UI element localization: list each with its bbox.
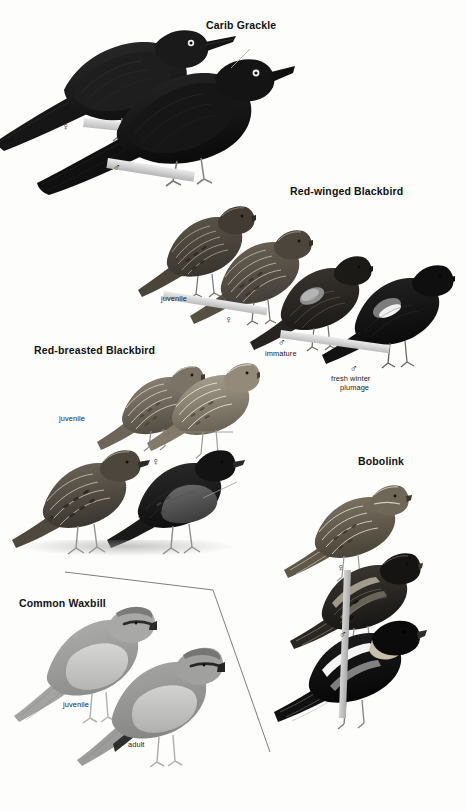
bobolink-female-symbol: ♀ <box>337 562 345 573</box>
ground-shadow-red-breasted <box>18 540 233 556</box>
rwbl-female-symbol: ♀ <box>225 314 233 325</box>
bird-rwbl-adult-male <box>320 255 455 380</box>
rwbl-adult-male-label-line2: plumage <box>340 383 369 392</box>
rbbl-juvenile-label: juvenile <box>59 414 85 423</box>
species-title-carib-grackle: Carib Grackle <box>206 19 276 31</box>
field-guide-plate: Carib Grackle ♀ ♂ Red-winged Blackbird j… <box>0 0 467 811</box>
waxbill-adult-label: adult <box>128 740 145 749</box>
species-title-common-waxbill: Common Waxbill <box>19 597 106 609</box>
rwbl-immature-male-symbol: ♂ <box>278 337 286 348</box>
carib-grackle-female-symbol: ♀ <box>62 121 70 132</box>
rbbl-female-symbol: ♀ <box>152 456 160 467</box>
species-title-bobolink: Bobolink <box>358 455 404 467</box>
rwbl-adult-male-label-line1: fresh winter <box>331 374 370 383</box>
waxbill-juvenile-label: juvenile <box>63 700 89 709</box>
rwbl-immature-label: immature <box>265 349 297 358</box>
rwbl-adult-male-symbol: ♂ <box>350 363 358 374</box>
bird-carib-grackle-male <box>35 55 295 200</box>
rbbl-male-right-symbol: ♂ <box>137 511 145 522</box>
bird-bobolink-male-breeding <box>272 612 427 737</box>
bobolink-male-breeding-symbol: ♂ <box>328 694 336 705</box>
rbbl-male-left-symbol: ♂ <box>47 513 55 524</box>
rwbl-juvenile-label: juvenile <box>161 294 187 303</box>
species-title-red-winged-blackbird: Red-winged Blackbird <box>290 185 403 197</box>
carib-grackle-male-symbol: ♂ <box>113 162 121 173</box>
bobolink-male-transitional-symbol: ♂ <box>339 629 347 640</box>
species-title-red-breasted-blackbird: Red-breasted Blackbird <box>34 344 155 356</box>
bird-waxbill-adult <box>75 636 225 776</box>
